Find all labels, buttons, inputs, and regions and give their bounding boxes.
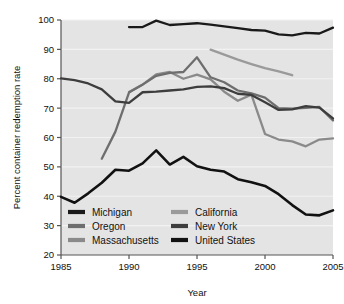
y-tick-label: 100 bbox=[38, 14, 54, 25]
y-tick-label: 80 bbox=[43, 73, 54, 84]
x-axis-ticks: 19851990199520002005 bbox=[50, 255, 343, 272]
legend-swatch bbox=[171, 224, 188, 228]
legend-label: California bbox=[195, 207, 238, 218]
y-axis-title: Percent container redemption rate bbox=[11, 66, 22, 210]
legend-swatch bbox=[68, 210, 85, 214]
legend-label: United States bbox=[195, 235, 255, 246]
x-tick-label: 2005 bbox=[322, 261, 343, 272]
y-tick-label: 40 bbox=[43, 191, 54, 202]
legend-label: Massachusetts bbox=[92, 235, 159, 246]
x-tick-label: 1990 bbox=[118, 261, 139, 272]
x-tick-label: 2000 bbox=[254, 261, 275, 272]
x-tick-label: 1995 bbox=[186, 261, 207, 272]
x-axis-title: Year bbox=[187, 287, 206, 298]
y-axis-ticks: 2030405060708090100 bbox=[38, 14, 61, 260]
line-chart: 203040506070809010019851990199520002005Y… bbox=[0, 0, 344, 304]
y-tick-label: 90 bbox=[43, 44, 54, 55]
legend-label: Oregon bbox=[92, 221, 125, 232]
y-tick-label: 20 bbox=[43, 249, 54, 260]
chart-container: 203040506070809010019851990199520002005Y… bbox=[0, 0, 344, 304]
x-tick-label: 1985 bbox=[50, 261, 71, 272]
legend-swatch bbox=[68, 224, 85, 228]
y-tick-label: 50 bbox=[43, 161, 54, 172]
y-tick-label: 70 bbox=[43, 103, 54, 114]
legend-swatch bbox=[171, 238, 188, 242]
legend-label: New York bbox=[195, 221, 238, 232]
legend-swatch bbox=[68, 238, 85, 242]
legend-label: Michigan bbox=[92, 207, 132, 218]
y-tick-label: 60 bbox=[43, 132, 54, 143]
y-tick-label: 30 bbox=[43, 220, 54, 231]
legend-swatch bbox=[171, 210, 188, 214]
